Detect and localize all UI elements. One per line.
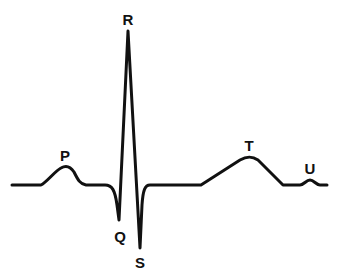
ecg-trace bbox=[12, 31, 327, 248]
label-p-wave: P bbox=[60, 148, 70, 163]
label-t-wave: T bbox=[244, 138, 253, 153]
label-u-wave: U bbox=[305, 161, 316, 176]
ecg-waveform bbox=[0, 0, 340, 280]
label-q-wave: Q bbox=[114, 229, 126, 244]
label-r-wave: R bbox=[123, 12, 134, 27]
ecg-diagram: P Q R S T U bbox=[0, 0, 340, 280]
label-s-wave: S bbox=[135, 255, 145, 270]
